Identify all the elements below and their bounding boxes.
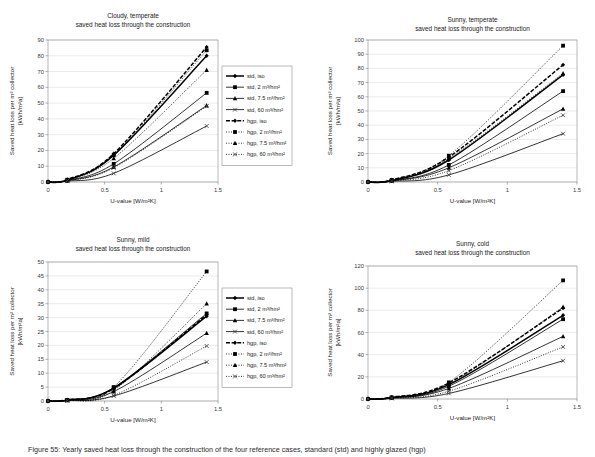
ytick-label: 60 <box>358 94 364 100</box>
ytick-label: 10 <box>38 370 44 376</box>
legend-label: hgp, 2 m³/hm² <box>247 351 282 357</box>
legend-label: std, 60 m³/hm² <box>247 107 283 113</box>
plot-frame <box>48 40 218 182</box>
ytick-label: 40 <box>38 116 44 122</box>
ytick-label: 10 <box>358 165 364 171</box>
xtick-label: 1 <box>160 187 163 193</box>
x-axis-label: U-value [W/m²K] <box>450 197 496 204</box>
x-axis-label: U-value [W/m²K] <box>110 197 156 204</box>
series-line <box>368 361 563 399</box>
xtick-label: 1 <box>506 187 509 193</box>
xtick-label: 0.5 <box>434 404 442 410</box>
xtick-label: 1 <box>506 404 509 410</box>
data-point-cross <box>205 124 209 128</box>
data-series <box>366 317 565 401</box>
legend-label: hgp, 7.5 m³/hm² <box>247 140 287 146</box>
ytick-label: 20 <box>358 151 364 157</box>
ytick-label: 70 <box>38 69 44 75</box>
chart-svg-cloudy-temperate: Cloudy, temperatesaved heat loss through… <box>0 0 300 228</box>
data-point-square <box>205 270 209 274</box>
chart-title: Sunny, temperate <box>448 16 498 24</box>
ytick-label: 80 <box>358 307 364 313</box>
chart-subtitle: saved heat loss through the construction <box>415 249 530 257</box>
legend-marker-square <box>233 85 237 89</box>
legend-label: hgp, 60 m³/hm² <box>247 151 285 157</box>
chart-svg-sunny-temperate: Sunny, temperatesaved heat loss through … <box>300 0 595 228</box>
data-series <box>46 45 209 184</box>
legend-label: std, 2 m³/hm² <box>247 306 280 312</box>
y-axis-label-line1: Saved heat loss per m² collector <box>326 288 333 376</box>
ytick-label: 20 <box>358 374 364 380</box>
ytick-label: 30 <box>358 136 364 142</box>
y-axis-label-line1: Saved heat loss per m² collector <box>8 287 15 375</box>
legend-label: std, 7.5 m³/hm² <box>247 95 285 101</box>
data-series <box>366 334 565 401</box>
chart-svg-sunny-cold: Sunny, coldsaved heat loss through the c… <box>300 228 595 443</box>
ytick-label: 50 <box>358 108 364 114</box>
ytick-label: 90 <box>358 51 364 57</box>
data-point-square <box>561 89 565 93</box>
data-series <box>366 44 565 184</box>
legend-marker-square <box>233 130 237 134</box>
data-point-cross <box>112 171 116 175</box>
xtick-label: 1 <box>160 406 163 412</box>
ytick-label: 45 <box>38 273 44 279</box>
figure-caption: Figure 55: Yearly saved heat loss throug… <box>0 444 595 457</box>
series-line <box>48 346 207 401</box>
data-point-triangle <box>561 305 565 309</box>
xtick-label: 0 <box>46 406 49 412</box>
xtick-label: 0.5 <box>101 187 109 193</box>
chart-title: Sunny, cold <box>456 240 489 248</box>
series-line <box>368 308 563 399</box>
data-point-triangle <box>561 106 565 110</box>
data-series <box>46 360 208 403</box>
series-line <box>48 316 207 401</box>
ytick-label: 40 <box>358 352 364 358</box>
chart-panel-cloudy-temperate: Cloudy, temperatesaved heat loss through… <box>0 0 300 228</box>
data-point-square <box>561 44 565 48</box>
ytick-label: 5 <box>41 384 44 390</box>
y-axis-label-line1: Saved heat loss per m² collector <box>8 67 15 155</box>
chart-gridlines: 020406080100120 <box>354 263 577 402</box>
ytick-label: 80 <box>38 53 44 59</box>
chart-title: Cloudy, temperate <box>107 12 159 20</box>
legend-label: hgp, 2 m³/hm² <box>247 129 282 135</box>
chart-series-group <box>46 45 209 184</box>
ytick-label: 20 <box>38 147 44 153</box>
ytick-label: 0 <box>41 179 44 185</box>
legend-label: hgp, iso <box>247 118 267 124</box>
data-point-square <box>561 317 565 321</box>
series-line <box>48 313 207 401</box>
chart-svg-sunny-mild: Sunny, mildsaved heat loss through the c… <box>0 228 300 443</box>
data-series <box>46 312 208 403</box>
series-line <box>48 304 207 401</box>
ytick-label: 0 <box>361 396 364 402</box>
xtick-label: 0 <box>366 404 369 410</box>
series-line <box>48 56 207 183</box>
series-line <box>48 362 207 401</box>
ytick-label: 10 <box>38 163 44 169</box>
ytick-label: 80 <box>358 65 364 71</box>
x-axis-label: U-value [W/m²K] <box>450 414 496 421</box>
ytick-label: 25 <box>38 329 44 335</box>
xtick-label: 1.5 <box>573 404 581 410</box>
chart-subtitle: saved heat loss through the construction <box>415 25 530 33</box>
series-line <box>48 106 207 182</box>
ytick-label: 0 <box>361 179 364 185</box>
x-axis-label: U-value [W/m²K] <box>110 416 156 423</box>
y-axis-label-line2: [kWh/m²a] <box>334 318 341 346</box>
chart-xaxis: 00.511.5 <box>46 182 222 193</box>
ytick-label: 40 <box>358 122 364 128</box>
data-series <box>46 48 208 184</box>
series-line <box>368 315 563 399</box>
legend-label: std, 2 m³/hm² <box>247 84 280 90</box>
data-point-triangle <box>561 334 565 338</box>
ytick-label: 50 <box>38 100 44 106</box>
xtick-label: 1.5 <box>214 187 222 193</box>
data-point-cross <box>561 132 565 136</box>
series-line <box>368 46 563 183</box>
ytick-label: 0 <box>41 398 44 404</box>
series-line <box>48 315 207 401</box>
legend-label: std, 7.5 m³/hm² <box>247 317 285 323</box>
y-axis-label-line2: [kWh/m²a] <box>16 97 23 125</box>
